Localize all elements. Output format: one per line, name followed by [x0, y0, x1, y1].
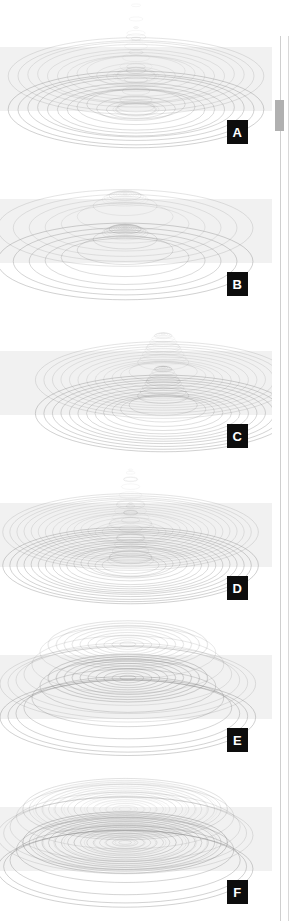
mesh-ring-fine [128, 469, 133, 471]
mesh-ring [95, 393, 231, 434]
mesh-ring [36, 782, 215, 836]
panel-label-badge: E [227, 728, 248, 752]
panel-label-badge: B [227, 272, 248, 296]
scrollbar-thumb[interactable] [275, 100, 284, 131]
mesh-ring [55, 822, 196, 864]
mesh-ring [61, 205, 189, 243]
panel-label-badge: A [227, 120, 248, 144]
mesh-ring [119, 841, 132, 845]
mesh-ring-fine [74, 827, 176, 858]
mesh-ring-fine [121, 484, 139, 490]
figure-scroll-pane[interactable]: ABCDEF [0, 0, 272, 921]
mesh-ring [67, 546, 195, 584]
figure-panel-d: D [0, 456, 272, 608]
mesh-ring-fine [64, 791, 187, 828]
mesh-ring [40, 660, 216, 713]
mesh-ring-fine [120, 675, 136, 680]
figure-panel-c: C [0, 304, 272, 456]
mesh-ring-fine [120, 642, 136, 647]
mesh-ring-fine [127, 64, 145, 70]
mesh-ring-fine [64, 824, 187, 861]
mesh-ring [45, 237, 205, 285]
figure-panel-a: A [0, 0, 272, 152]
mesh-ring-fine [124, 43, 147, 50]
mesh-ring [61, 238, 189, 276]
mesh-ring-fine [112, 640, 144, 650]
mesh-ring [126, 34, 146, 40]
figure-panel-f: F [0, 760, 272, 912]
mesh-ring [28, 42, 244, 107]
mesh-ring-fine [123, 193, 128, 195]
mesh-ring [87, 831, 164, 854]
panel-label-badge: C [227, 424, 248, 448]
figure-panel-b: B [0, 152, 272, 304]
mesh-ring-fine [64, 659, 191, 697]
mesh-ring [129, 395, 197, 415]
scrollbar-track[interactable] [280, 36, 281, 921]
mesh-ring-fine [105, 837, 146, 849]
mesh-ring-fine [134, 27, 139, 29]
panel-label-badge: D [227, 576, 248, 600]
mesh-ring-fine [123, 227, 128, 229]
mesh-ring-fine [88, 633, 167, 657]
mesh-ring [104, 395, 223, 431]
mesh-ring [8, 71, 264, 148]
mesh-ring [100, 802, 151, 817]
mesh-ring-fine [110, 550, 151, 562]
mesh-ring-fine [131, 4, 140, 7]
figure-panel-e: E [0, 608, 272, 760]
vertical-scrollbar[interactable] [272, 0, 289, 921]
mesh-ring [119, 807, 132, 811]
mesh-ring [24, 676, 232, 738]
mesh-ring-fine [96, 635, 159, 654]
mesh-ring [52, 542, 208, 589]
mesh-ring [109, 518, 152, 531]
mesh-ring [29, 232, 221, 290]
mesh-ring-fine [126, 471, 135, 474]
mesh-ring [60, 544, 202, 587]
mesh-ring-fine [127, 30, 145, 36]
mesh-ring [24, 643, 232, 705]
mesh-ring-fine [128, 503, 133, 505]
mesh-ring [116, 104, 155, 116]
mesh-ring-fine [64, 625, 191, 663]
mesh-ring [100, 835, 151, 850]
mesh-ring [8, 38, 264, 115]
mesh-ring-fine [129, 17, 143, 21]
mesh-ring-fine [112, 673, 144, 683]
mesh-ring [28, 76, 244, 141]
scrollbar-track-edge [288, 36, 289, 921]
mesh-ring [4, 830, 247, 903]
mesh-ring-fine [105, 803, 146, 815]
panel-label-badge: F [227, 880, 248, 904]
